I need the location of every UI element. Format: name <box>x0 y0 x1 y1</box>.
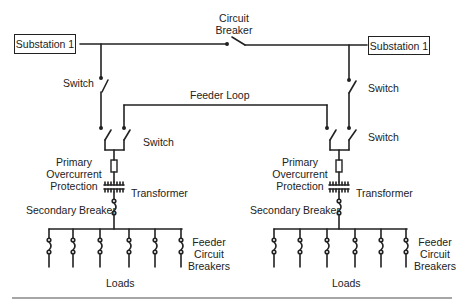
right-feeder-breakers <box>272 229 408 267</box>
label-line: Protection <box>272 180 328 192</box>
right-switch-lower-a <box>330 130 336 140</box>
breaker-contact <box>226 43 228 45</box>
left-transformer-label: Transformer <box>131 187 188 199</box>
substation-right-box: Substation 1 <box>368 36 430 55</box>
label-line: Primary <box>272 156 328 168</box>
left-switch-upper-label: Switch <box>63 77 94 89</box>
circuit-breaker-label-line2: Breaker <box>214 24 254 36</box>
left-switch-upper-blade <box>102 80 108 92</box>
label-line: Feeder <box>188 236 230 248</box>
label-line: Circuit <box>414 248 456 260</box>
left-secondary-breaker-label: Secondary Breaker <box>26 204 116 216</box>
substation-right-label: Substation 1 <box>370 40 428 52</box>
right-transformer-label: Transformer <box>356 187 413 199</box>
left-feeder-breakers-label: Feeder Circuit Breakers <box>188 236 230 272</box>
label-line: Overcurrent <box>46 168 102 180</box>
right-primary-protection-label: Primary Overcurrent Protection <box>272 156 328 192</box>
feeder-loop-label: Feeder Loop <box>190 89 250 101</box>
right-secondary-breaker-label: Secondary Breaker <box>250 204 340 216</box>
left-switch-lower-label: Switch <box>143 136 174 148</box>
label-line: Overcurrent <box>272 168 328 180</box>
left-switch-lower-b <box>124 130 130 140</box>
label-line: Breakers <box>414 260 456 272</box>
right-feeder-breakers-label: Feeder Circuit Breakers <box>414 236 456 272</box>
left-loads-label: Loads <box>106 277 135 289</box>
circuit-breaker-label-line1: Circuit <box>214 12 254 24</box>
substation-left-box: Substation 1 <box>14 34 76 54</box>
label-line: Protection <box>46 180 102 192</box>
label-line: Breakers <box>188 260 230 272</box>
right-transformer-icon <box>329 182 349 192</box>
left-switch-lower-a <box>105 130 111 140</box>
label-line: Primary <box>46 156 102 168</box>
left-transformer-icon <box>104 182 124 192</box>
right-loads-label: Loads <box>332 277 361 289</box>
left-feeder-breakers <box>47 229 183 267</box>
right-switch-upper-blade <box>349 81 356 93</box>
right-switch-lower-b <box>349 130 356 140</box>
label-line: Circuit <box>188 248 230 260</box>
right-switch-lower-label: Switch <box>368 131 399 143</box>
circuit-breaker-blade <box>232 37 245 45</box>
right-switch-upper-label: Switch <box>368 82 399 94</box>
substation-left-label: Substation 1 <box>16 38 74 50</box>
label-line: Feeder <box>414 236 456 248</box>
circuit-breaker-label: Circuit Breaker <box>214 12 254 36</box>
left-primary-protection-label: Primary Overcurrent Protection <box>46 156 102 192</box>
